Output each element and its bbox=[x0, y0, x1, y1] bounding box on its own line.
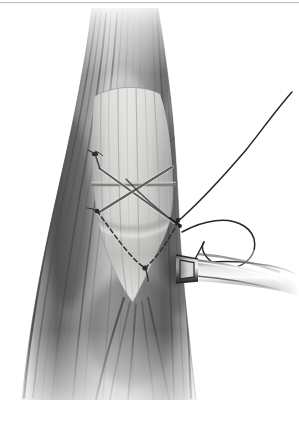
right-fade bbox=[228, 250, 299, 431]
illustration-canvas: Cross-stitch tendon repair with forceps … bbox=[0, 0, 299, 431]
top-fade bbox=[0, 0, 299, 74]
top-border-rule-overlay bbox=[0, 2, 299, 3]
needle-tip bbox=[178, 224, 182, 228]
transverse-repair-line bbox=[91, 182, 176, 185]
jaw-contact-shadow bbox=[167, 255, 185, 285]
surgical-illustration-svg bbox=[0, 0, 299, 431]
